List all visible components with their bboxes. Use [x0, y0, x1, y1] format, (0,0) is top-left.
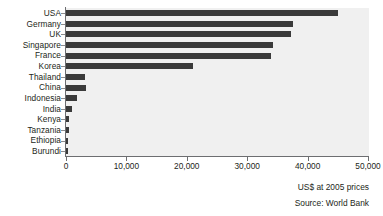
y-axis-tick [61, 130, 65, 131]
y-axis-tick [61, 66, 65, 67]
bar [66, 85, 86, 91]
category-label: Indonesia [0, 94, 61, 102]
x-axis-tick-label: 40,000 [295, 162, 320, 171]
bar [66, 53, 271, 59]
category-label: UK [0, 30, 61, 38]
source-caption: Source: World Bank [295, 199, 369, 208]
category-label: China [0, 83, 61, 91]
bar [66, 31, 291, 37]
y-axis-tick [61, 141, 65, 142]
bar [66, 116, 69, 122]
category-label: Kenya [0, 115, 61, 123]
bar [66, 106, 72, 112]
y-axis-tick [61, 13, 65, 14]
x-axis-tick-label: 20,000 [174, 162, 199, 171]
bar [66, 74, 85, 80]
category-label: France [0, 51, 61, 59]
bar [66, 63, 193, 69]
y-axis-line [65, 7, 66, 157]
bar [66, 138, 68, 144]
category-label: Ethiopia [0, 136, 61, 144]
x-axis-caption: US$ at 2005 prices [298, 183, 369, 192]
category-label: USA [0, 9, 61, 17]
category-axis: USAGermanyUKSingaporeFranceKoreaThailand… [0, 8, 61, 156]
category-label: Singapore [0, 41, 61, 49]
x-axis-tick-label: 50,000 [355, 162, 380, 171]
x-axis-tick-label: 0 [64, 162, 69, 171]
y-axis-tick [61, 56, 65, 57]
category-label: Burundi [0, 147, 61, 155]
category-label: Germany [0, 20, 61, 28]
y-axis-tick [61, 119, 65, 120]
category-label: Thailand [0, 73, 61, 81]
bar [66, 95, 77, 101]
category-label: Tanzania [0, 126, 61, 134]
bar [66, 148, 68, 154]
y-axis-tick [61, 151, 65, 152]
y-axis-tick [61, 34, 65, 35]
bar-chart-figure: USAGermanyUKSingaporeFranceKoreaThailand… [0, 0, 383, 216]
y-axis-tick [61, 98, 65, 99]
category-label: India [0, 105, 61, 113]
bar [66, 10, 338, 16]
x-axis-line [65, 156, 369, 157]
bar [66, 42, 273, 48]
y-axis-tick [61, 24, 65, 25]
bar [66, 21, 293, 27]
x-axis-tick-label: 30,000 [234, 162, 259, 171]
y-axis-tick [61, 77, 65, 78]
y-axis-tick [61, 45, 65, 46]
x-axis-tick-label: 10,000 [114, 162, 139, 171]
category-label: Korea [0, 62, 61, 70]
y-axis-tick [61, 109, 65, 110]
plot-area [66, 8, 369, 156]
y-axis-tick [61, 88, 65, 89]
bar [66, 127, 69, 133]
